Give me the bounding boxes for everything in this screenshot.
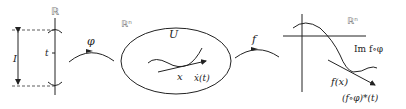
panel-real-line: ℝ I t — [12, 6, 62, 95]
panel-image: ℝⁿ Im f∘φ f(x) (f∘φ)*(t) — [283, 14, 383, 103]
image-tangent-label: (f∘φ)*(t) — [342, 93, 379, 103]
space-label-rn-image: ℝⁿ — [347, 16, 358, 26]
interval-label: I — [12, 53, 18, 64]
panel-domain: ℝⁿ U x ẋ(t) — [121, 19, 231, 94]
space-label-r: ℝ — [51, 6, 59, 17]
point-x-label: x — [177, 71, 183, 82]
diagram-canvas: ℝ I t φ ℝⁿ U x ẋ(t) f ℝⁿ Im f∘ — [0, 0, 406, 109]
tangent-label: ẋ(t) — [194, 73, 210, 83]
map-phi: φ — [69, 35, 114, 62]
point-t-label: t — [45, 48, 49, 58]
f-label: f — [251, 33, 258, 46]
region-u-label: U — [169, 28, 179, 41]
phi-arc — [69, 53, 114, 62]
curve-image-label: Im f∘φ — [354, 44, 383, 54]
f-arc — [235, 50, 279, 58]
point-fx-label: f(x) — [330, 76, 348, 87]
map-f: f — [235, 33, 279, 58]
space-label-rn: ℝⁿ — [121, 19, 132, 29]
phi-label: φ — [87, 35, 95, 48]
